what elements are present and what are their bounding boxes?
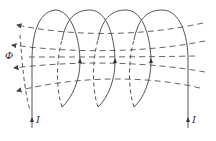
arrow-up-icon	[149, 58, 153, 63]
flux-line-3	[14, 63, 205, 72]
flux-line-4	[17, 79, 200, 91]
flux-line-1	[17, 23, 203, 33]
flux-label: Φ	[5, 50, 13, 61]
flux-line-5	[25, 56, 195, 57]
arrow-up-icon	[30, 117, 34, 122]
current-out-label: I	[191, 114, 197, 125]
solenoid-coils	[20, 10, 188, 128]
lead-in-wire	[32, 10, 80, 128]
arrow-up-icon	[186, 117, 190, 122]
flux-lines	[12, 23, 205, 91]
arrow-up-icon	[113, 58, 117, 63]
coil-2	[62, 10, 115, 107]
current-in-label: I	[35, 114, 41, 125]
solenoid-diagram: Φ I I	[0, 0, 216, 141]
current-arrows	[30, 58, 190, 122]
coil-back-2	[94, 40, 99, 107]
flux-line-2	[12, 41, 205, 51]
arrow-up-icon	[78, 58, 82, 63]
coil-3	[98, 10, 151, 107]
